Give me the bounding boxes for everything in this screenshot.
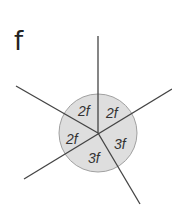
vertex-diagram: 2f 2f 2f 3f 3f <box>0 0 172 205</box>
region-label: 2f <box>77 103 92 119</box>
region-label: 2f <box>105 105 120 121</box>
region-label: 2f <box>65 131 80 147</box>
